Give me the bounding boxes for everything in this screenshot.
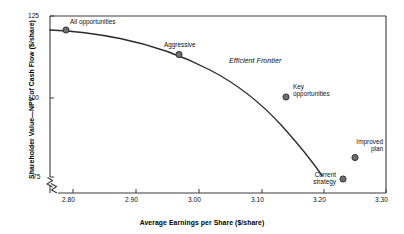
y-ticks [50,16,54,177]
label-all-opportunities: All opportunities [70,18,115,25]
data-markers [63,27,358,182]
x-tick-label-3-10: 3.10 [251,196,264,203]
marker-improved-plan [352,154,358,160]
label-aggressive: Aggressive [164,41,196,48]
label-improved-plan-line1: Improved [320,138,383,145]
label-key-opportunities-line2: opportunities [293,90,330,97]
label-key-opportunities: Key opportunities [293,83,330,98]
label-key-opportunities-line1: Key [293,83,330,90]
x-tick-label-3-20: 3.20 [313,196,326,203]
axis-frame [50,16,386,193]
marker-key-opportunities [283,94,289,100]
label-current-strategy-line1: Current [293,171,336,178]
x-tick-label-3-30: 3.30 [375,196,388,203]
label-current-strategy-line2: strategy [293,178,336,185]
x-tick-label-3-00: 3.00 [188,196,201,203]
marker-all-opportunities [63,27,69,33]
chart-figure: 125 100 75 2.80 2.90 3.00 3.10 3.20 3.30… [0,0,404,234]
label-improved-plan-line2: plan [320,145,383,152]
x-axis-title: Average Earnings per Share ($/share) [0,219,404,226]
label-efficient-frontier: Efficient Frontier [229,56,281,65]
marker-aggressive [176,51,182,57]
axis-break-icon [47,178,57,194]
y-axis-title: Shareholder Value—NPV of Cash Flow ($/sh… [28,17,35,183]
plot-area-svg [0,0,404,234]
label-improved-plan: Improved plan [320,138,383,153]
x-tick-label-2-90: 2.90 [125,196,138,203]
marker-current-strategy [340,176,346,182]
x-ticks [73,189,386,193]
x-tick-label-2-80: 2.80 [62,196,75,203]
label-current-strategy: Current strategy [293,171,336,186]
efficient-frontier-line [50,30,322,176]
